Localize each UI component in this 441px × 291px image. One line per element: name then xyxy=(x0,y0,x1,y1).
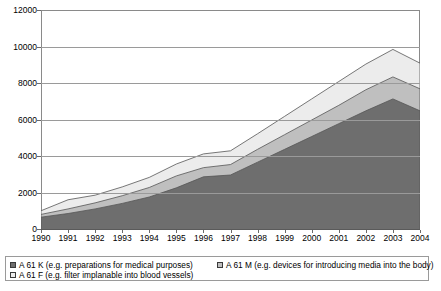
legend-label-a61f: A 61 F (e.g. filter implanable into bloo… xyxy=(19,270,193,280)
y-axis-label-2000: 2000 xyxy=(1,189,37,198)
legend-swatch-a61f xyxy=(10,272,16,278)
x-axis-label-2003: 2003 xyxy=(378,233,408,243)
x-axis-label-2000: 2000 xyxy=(297,233,327,243)
legend-item-a61k[interactable]: A 61 K (e.g. preparations for medical pu… xyxy=(10,260,193,270)
x-axis-label-2004: 2004 xyxy=(405,233,435,243)
x-axis-label-1990: 1990 xyxy=(26,233,56,243)
legend-swatch-a61m xyxy=(217,262,223,268)
plot-area xyxy=(41,10,420,230)
x-axis-label-1993: 1993 xyxy=(107,233,137,243)
legend-label-a61m: A 61 M (e.g. devices for introducing med… xyxy=(226,260,434,270)
x-axis-label-2002: 2002 xyxy=(351,233,381,243)
legend-item-a61m[interactable]: A 61 M (e.g. devices for introducing med… xyxy=(217,260,434,270)
chart-container: 12000 10000 8000 6000 4000 2000 0 xyxy=(0,0,441,291)
x-axis-label-1996: 1996 xyxy=(188,233,218,243)
legend-label-a61k: A 61 K (e.g. preparations for medical pu… xyxy=(19,260,193,270)
x-axis-label-1999: 1999 xyxy=(270,233,300,243)
x-axis-label-1998: 1998 xyxy=(243,233,273,243)
y-axis-label-4000: 4000 xyxy=(1,152,37,161)
stacked-area-series xyxy=(41,10,420,230)
y-axis-label-10000: 10000 xyxy=(1,43,37,52)
legend: A 61 K (e.g. preparations for medical pu… xyxy=(5,256,429,281)
legend-swatch-a61k xyxy=(10,262,16,268)
x-axis: 1990199119921993199419951996199719981999… xyxy=(41,233,420,247)
x-axis-label-1994: 1994 xyxy=(134,233,164,243)
x-axis-label-1997: 1997 xyxy=(216,233,246,243)
legend-item-a61f[interactable]: A 61 F (e.g. filter implanable into bloo… xyxy=(10,270,193,280)
x-axis-label-1995: 1995 xyxy=(161,233,191,243)
x-axis-label-1991: 1991 xyxy=(53,233,83,243)
x-axis-label-1992: 1992 xyxy=(80,233,110,243)
x-axis-label-2001: 2001 xyxy=(324,233,354,243)
y-axis-label-8000: 8000 xyxy=(1,79,37,88)
y-axis-label-12000: 12000 xyxy=(1,6,37,15)
y-axis-label-6000: 6000 xyxy=(1,116,37,125)
y-axis: 12000 10000 8000 6000 4000 2000 0 xyxy=(0,0,37,240)
